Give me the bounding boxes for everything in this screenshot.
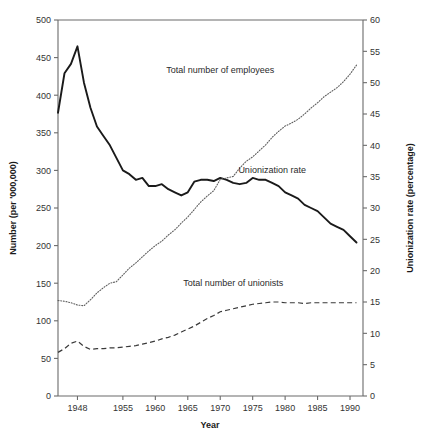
y-axis-left-tick-label: 100 [36, 316, 51, 326]
x-axis-tick-label: 1970 [210, 403, 230, 413]
y-axis-right-tick-label: 60 [370, 15, 380, 25]
y-axis-left-tick-label: 300 [36, 166, 51, 176]
annotation-unionization-rate: Unionization rate [238, 165, 306, 175]
series-line-total-number-of-unionists [58, 302, 357, 352]
y-axis-right-tick-label: 10 [370, 329, 380, 339]
x-axis-tick-label: 1985 [308, 403, 328, 413]
y-axis-right-tick-label: 50 [370, 78, 380, 88]
y-axis-right-title: Unionization rate (percentage) [405, 143, 415, 273]
y-axis-right-tick-label: 20 [370, 266, 380, 276]
y-axis-left-ticks: 050100150200250300350400450500 [36, 15, 58, 401]
x-axis-tick-label: 1960 [145, 403, 165, 413]
y-axis-left-tick-label: 50 [41, 354, 51, 364]
series-line-unionization-rate [58, 46, 357, 242]
x-axis-title: Year [200, 420, 220, 430]
y-axis-left-tick-label: 500 [36, 15, 51, 25]
annotation-total-number-of-employees: Total number of employees [166, 65, 275, 75]
y-axis-right-tick-label: 40 [370, 141, 380, 151]
y-axis-right-tick-label: 35 [370, 172, 380, 182]
x-axis-tick-label: 1948 [67, 403, 87, 413]
y-axis-right-tick-label: 25 [370, 235, 380, 245]
y-axis-left-tick-label: 200 [36, 241, 51, 251]
series-line-total-number-of-employees [58, 65, 357, 306]
y-axis-left-tick-label: 450 [36, 53, 51, 63]
y-axis-left-tick-label: 0 [46, 391, 51, 401]
chart-container: 050100150200250300350400450500 051015202… [0, 0, 426, 437]
x-axis-tick-label: 1955 [113, 403, 133, 413]
y-axis-left-tick-label: 350 [36, 128, 51, 138]
series-layer [58, 46, 357, 352]
x-axis-tick-label: 1980 [275, 403, 295, 413]
x-axis-tick-label: 1965 [178, 403, 198, 413]
y-axis-right-tick-label: 45 [370, 109, 380, 119]
dual-axis-line-chart: 050100150200250300350400450500 051015202… [0, 0, 426, 437]
x-axis-ticks: 194819551960196519701975198019851990 [67, 396, 360, 413]
y-axis-left-title: Number (per '000,000) [8, 161, 18, 255]
y-axis-right-tick-label: 15 [370, 297, 380, 307]
annotation-total-number-of-unionists: Total number of unionists [183, 278, 284, 288]
x-axis-tick-label: 1975 [243, 403, 263, 413]
y-axis-right-tick-label: 55 [370, 47, 380, 57]
y-axis-right-tick-label: 0 [370, 391, 375, 401]
y-axis-right-tick-label: 30 [370, 203, 380, 213]
annotation-layer: Total number of employeesUnionization ra… [166, 65, 306, 289]
y-axis-left-tick-label: 250 [36, 203, 51, 213]
x-axis-tick-label: 1990 [340, 403, 360, 413]
y-axis-left-tick-label: 400 [36, 91, 51, 101]
plot-frame [58, 20, 363, 396]
y-axis-left-tick-label: 150 [36, 279, 51, 289]
y-axis-right-tick-label: 5 [370, 360, 375, 370]
y-axis-right-ticks: 051015202530354045505560 [363, 15, 380, 401]
